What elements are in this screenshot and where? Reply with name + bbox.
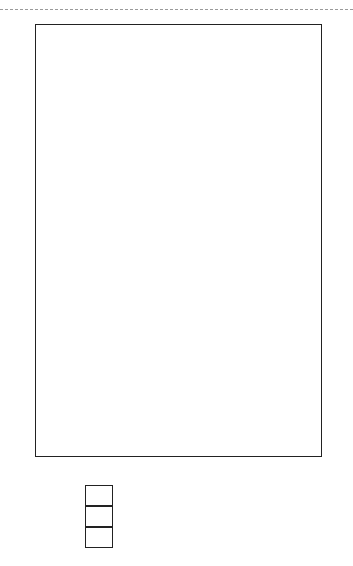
legend-item-color-c — [85, 527, 121, 548]
color-b-swatch — [85, 506, 113, 527]
legend-item-color-b — [85, 506, 121, 527]
knitting-chart-grid — [35, 24, 322, 457]
color-legend — [85, 485, 121, 548]
legend-item-color-a — [85, 485, 121, 506]
color-c-swatch — [85, 527, 113, 548]
dashed-divider — [0, 9, 353, 10]
color-a-swatch — [85, 485, 113, 506]
